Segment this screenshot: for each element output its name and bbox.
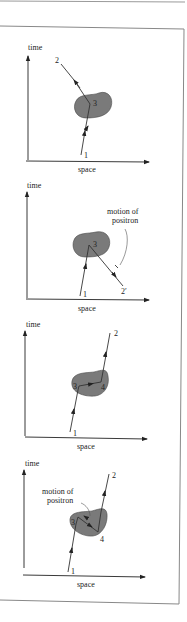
point-label-3: 3 <box>71 518 75 527</box>
space-axis-label: space <box>78 165 96 174</box>
point-label-2: 2 <box>112 471 116 480</box>
point-label-3: 3 <box>93 99 97 108</box>
panel-4: time space motion of positron 1 2 3 4 <box>23 459 145 589</box>
arrow-icon <box>74 80 80 88</box>
time-axis-label: time <box>25 459 40 468</box>
point-label-1: 1 <box>73 429 77 438</box>
worldline-2b <box>61 64 74 80</box>
point-label-3: 3 <box>93 240 97 249</box>
point-label-2: 2 <box>114 329 118 338</box>
arrow-icon <box>112 272 116 277</box>
point-label-1: 1 <box>71 567 75 576</box>
space-axis-label: space <box>78 304 96 313</box>
interaction-blob <box>70 509 107 536</box>
annotation-line-2: positron <box>47 496 73 505</box>
space-axis <box>26 299 149 300</box>
space-axis-label: space <box>77 442 95 451</box>
annotation-line-2: positron <box>112 216 138 225</box>
point-label-3: 3 <box>73 382 77 391</box>
time-axis-label: time <box>26 320 41 329</box>
top-rule <box>0 1 185 2</box>
time-axis-label: time <box>28 43 43 52</box>
point-label-4: 4 <box>101 383 105 392</box>
annotation-line-1: motion of <box>42 487 74 496</box>
worldline-2 <box>102 333 110 377</box>
tick-icon <box>115 265 118 268</box>
interaction-blob <box>73 232 110 257</box>
space-axis <box>25 437 147 439</box>
space-axis-label: space <box>77 580 95 589</box>
annotation-line-1: motion of <box>107 207 139 216</box>
space-axis <box>26 161 149 162</box>
arrow-icon <box>71 548 72 553</box>
point-label-1: 1 <box>84 151 88 160</box>
space-axis <box>23 575 145 577</box>
panel-2: time motion of positron 1 2′ 3 <box>26 181 149 300</box>
point-label-1: 1 <box>83 290 87 299</box>
feynman-diagram-figure: time space 1 2 3 time motion of positron… <box>0 0 187 622</box>
panel-1: time space 1 2 3 <box>26 43 149 174</box>
panel-3: time space 1 2 3 4 <box>25 320 147 451</box>
point-label-2prime: 2′ <box>121 287 127 296</box>
point-label-2: 2 <box>55 56 59 65</box>
annotation-pointer <box>120 229 127 265</box>
time-axis-label: time <box>27 181 42 190</box>
point-label-4: 4 <box>100 535 104 544</box>
